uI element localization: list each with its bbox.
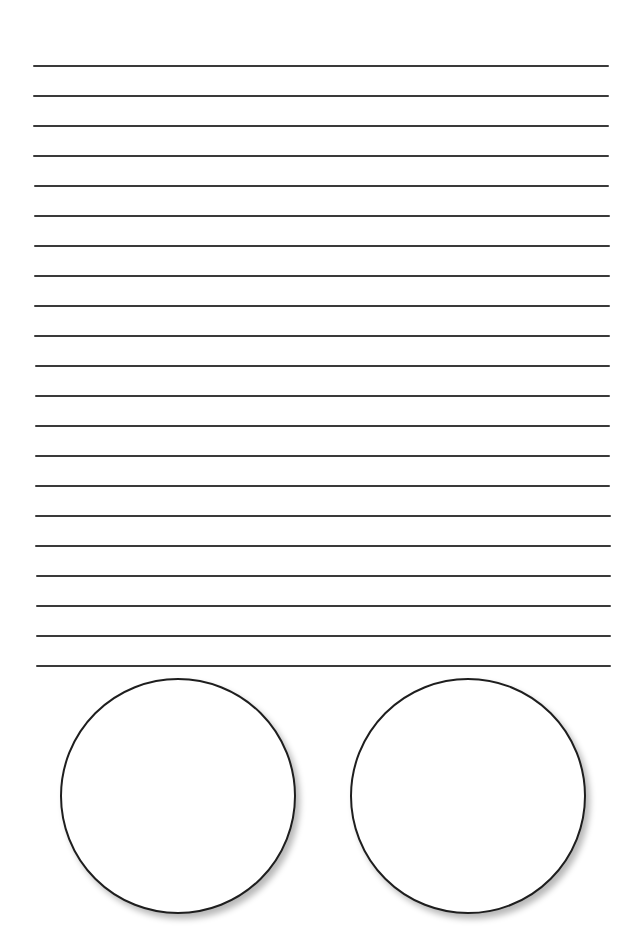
ruled-line bbox=[35, 485, 610, 487]
ruled-line bbox=[35, 545, 610, 547]
ruled-line bbox=[36, 575, 611, 577]
ruled-line bbox=[35, 395, 610, 397]
ruled-line bbox=[33, 95, 609, 97]
lined-paper-sheet bbox=[0, 0, 640, 942]
ruled-line bbox=[33, 155, 609, 157]
ruled-line bbox=[33, 125, 609, 127]
ruled-line bbox=[35, 365, 611, 367]
ruled-line bbox=[35, 455, 610, 457]
ruled-line bbox=[34, 275, 610, 277]
ruled-line bbox=[34, 335, 610, 337]
left-circle bbox=[60, 678, 296, 914]
ruled-line bbox=[34, 305, 610, 307]
ruled-line bbox=[34, 215, 610, 217]
ruled-line bbox=[34, 185, 610, 187]
ruled-line bbox=[35, 515, 610, 517]
ruled-line bbox=[35, 425, 610, 427]
right-circle bbox=[350, 678, 586, 914]
ruled-line bbox=[33, 65, 609, 67]
ruled-line bbox=[34, 245, 610, 247]
ruled-line bbox=[36, 665, 611, 667]
ruled-line bbox=[36, 635, 611, 637]
ruled-line bbox=[36, 605, 611, 607]
